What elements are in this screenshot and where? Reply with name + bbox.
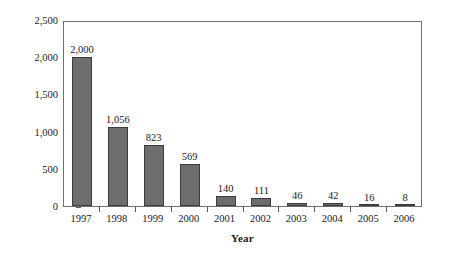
x-axis-tick-label: 2004	[322, 213, 343, 225]
bar-slot: 2,000	[64, 22, 100, 206]
x-axis-tick-label: 2006	[394, 213, 415, 225]
x-axis-tick-label: 2002	[250, 213, 271, 225]
x-axis-title: Year	[63, 232, 422, 244]
x-axis-tick-label: 1998	[106, 213, 127, 225]
x-axis-tick-label: 2000	[178, 213, 199, 225]
x-axis-tick-mark	[135, 207, 136, 212]
bar-slot: 823	[136, 22, 172, 206]
bar[interactable]	[359, 204, 379, 206]
bar-slot: 569	[172, 22, 208, 206]
y-axis-tick-label: 2,000	[18, 53, 58, 63]
bar-value-label: 140	[218, 183, 234, 194]
y-axis-tick-labels: 05001,0001,5002,0002,500	[18, 21, 58, 207]
x-axis-tick-mark	[314, 207, 315, 212]
bar-value-label: 823	[146, 132, 162, 143]
bar-slot: 140	[208, 22, 244, 206]
y-axis-tick-label: 1,000	[18, 128, 58, 138]
bar-slot: 16	[351, 22, 387, 206]
bar[interactable]	[323, 203, 343, 206]
bar-value-label: 2,000	[70, 44, 94, 55]
x-axis-tick-mark	[278, 207, 279, 212]
bar-slot: 1,056	[100, 22, 136, 206]
bar[interactable]	[216, 196, 236, 206]
bar-value-label: 42	[328, 190, 339, 201]
bar-value-label: 111	[254, 185, 269, 196]
x-axis-tick-labels: 1997199819992000200120022003200420052006	[63, 213, 422, 229]
y-axis-tick-label: 0	[18, 202, 58, 212]
x-axis-tick-label: 1997	[70, 213, 91, 225]
x-axis-tick-label: 1999	[142, 213, 163, 225]
bar-slot: 42	[315, 22, 351, 206]
bar-slot: 46	[279, 22, 315, 206]
plot-area: 2,0001,0568235691401114642168	[63, 21, 422, 207]
bar-value-label: 46	[292, 190, 303, 201]
bar-slot: 111	[244, 22, 280, 206]
bar[interactable]	[180, 164, 200, 206]
bar[interactable]	[72, 57, 92, 206]
x-axis-tick-label: 2005	[358, 213, 379, 225]
bar[interactable]	[251, 198, 271, 206]
y-axis-tick-label: 2,500	[18, 16, 58, 26]
x-axis-tick-label: 2003	[286, 213, 307, 225]
bar-value-label: 16	[364, 192, 375, 203]
x-axis-tick-mark	[99, 207, 100, 212]
y-axis-tick-label: 1,500	[18, 90, 58, 100]
bar-value-label: 569	[182, 151, 198, 162]
bar-slot: 8	[387, 22, 423, 206]
bar[interactable]	[395, 204, 415, 206]
bar-value-label: 1,056	[106, 114, 130, 125]
bar[interactable]	[144, 145, 164, 206]
x-axis-tick-label: 2001	[214, 213, 235, 225]
y-axis-tick-label: 500	[18, 165, 58, 175]
x-axis-tick-mark	[350, 207, 351, 212]
bar-value-label: 8	[402, 192, 407, 203]
x-axis-tick-mark	[207, 207, 208, 212]
x-axis-tick-mark	[171, 207, 172, 212]
x-axis-tick-mark	[386, 207, 387, 212]
x-axis-tick-mark	[243, 207, 244, 212]
bars-layer: 2,0001,0568235691401114642168	[64, 22, 421, 206]
bar[interactable]	[108, 127, 128, 206]
bar-chart: Parts Per Million 05001,0001,5002,0002,5…	[0, 0, 465, 262]
bar[interactable]	[287, 203, 307, 206]
